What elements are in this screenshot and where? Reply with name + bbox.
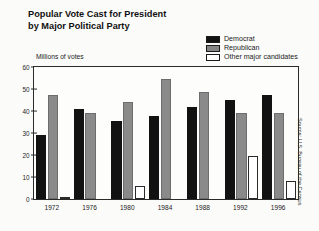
bar-group bbox=[262, 67, 296, 199]
plot-inner: 0102030405060 bbox=[34, 67, 298, 199]
bar bbox=[187, 107, 197, 199]
plot-area: 0102030405060 bbox=[33, 66, 299, 200]
x-axis-tick-label: 1992 bbox=[233, 204, 248, 211]
x-axis-tick-label: 1972 bbox=[45, 204, 60, 211]
bar bbox=[149, 116, 159, 199]
bar bbox=[225, 100, 235, 199]
legend-label-republican: Republican bbox=[224, 44, 260, 53]
bar bbox=[248, 156, 258, 199]
y-axis-tick-label: 20 bbox=[22, 152, 29, 159]
bar bbox=[161, 79, 171, 199]
bar bbox=[236, 113, 246, 199]
bar bbox=[111, 121, 121, 199]
y-axis-tick: 60 bbox=[22, 64, 34, 71]
y-axis-tick: 50 bbox=[22, 86, 34, 93]
legend-label-other: Other major candidates bbox=[224, 53, 298, 62]
chart-page: Popular Vote Cast for President by Major… bbox=[0, 0, 319, 231]
bar bbox=[199, 92, 209, 199]
legend: Democrat Republican Other major candidat… bbox=[206, 35, 298, 63]
y-axis-tick: 10 bbox=[22, 174, 34, 181]
legend-label-democrat: Democrat bbox=[224, 35, 255, 44]
y-axis-tick: 30 bbox=[22, 130, 34, 137]
bar-group bbox=[149, 67, 183, 199]
y-axis-tick: 20 bbox=[22, 152, 34, 159]
y-axis-tick-label: 60 bbox=[22, 64, 29, 71]
y-axis-tick-label: 50 bbox=[22, 86, 29, 93]
legend-item-republican: Republican bbox=[206, 44, 298, 53]
x-axis-tick-label: 1976 bbox=[82, 204, 97, 211]
x-axis-tick-label: 1996 bbox=[271, 204, 286, 211]
legend-swatch-democrat bbox=[206, 36, 220, 43]
x-axis-tick-label: 1984 bbox=[158, 204, 173, 211]
bar-group bbox=[187, 67, 221, 199]
bar bbox=[286, 181, 296, 199]
bar-group bbox=[36, 67, 70, 199]
bar bbox=[74, 109, 84, 199]
y-axis-tick-mark bbox=[31, 199, 34, 200]
legend-item-democrat: Democrat bbox=[206, 35, 298, 44]
bar bbox=[36, 135, 46, 199]
y-axis-title: Millions of votes bbox=[36, 53, 84, 60]
legend-swatch-republican bbox=[206, 45, 220, 52]
y-axis-tick-label: 30 bbox=[22, 130, 29, 137]
y-axis-tick-label: 40 bbox=[22, 108, 29, 115]
x-axis-tick-label: 1980 bbox=[120, 204, 135, 211]
bar-group bbox=[74, 67, 108, 199]
y-axis-tick: 0 bbox=[26, 196, 34, 203]
bar bbox=[60, 197, 70, 199]
bar-group bbox=[225, 67, 259, 199]
bar bbox=[123, 102, 133, 199]
y-axis-tick-label: 10 bbox=[22, 174, 29, 181]
y-axis-tick: 40 bbox=[22, 108, 34, 115]
y-axis-tick-label: 0 bbox=[26, 196, 30, 203]
bar bbox=[135, 186, 145, 199]
legend-item-other: Other major candidates bbox=[206, 53, 298, 62]
bar-group bbox=[111, 67, 145, 199]
legend-swatch-other bbox=[206, 54, 220, 61]
bar bbox=[85, 113, 95, 199]
x-axis-tick-label: 1988 bbox=[195, 204, 210, 211]
bar bbox=[48, 95, 58, 199]
source-note: Source: U.S. Bureau of the Census bbox=[297, 118, 303, 206]
bar bbox=[274, 113, 284, 199]
bar bbox=[262, 95, 272, 199]
page-title: Popular Vote Cast for President by Major… bbox=[28, 9, 248, 32]
y-axis-tick-mark bbox=[31, 67, 34, 68]
